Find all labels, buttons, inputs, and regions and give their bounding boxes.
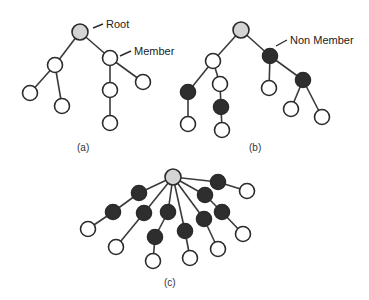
member-node <box>146 254 161 269</box>
member-node <box>236 227 251 242</box>
root-label: Root <box>106 18 129 30</box>
caption-a: (a) <box>77 142 89 153</box>
non-member-node <box>181 85 196 100</box>
non-member-node <box>296 73 311 88</box>
non-member-node <box>106 205 121 220</box>
member-node <box>211 242 226 257</box>
non-member-node <box>263 49 278 64</box>
member-node <box>181 117 196 132</box>
member-label: Member <box>134 45 175 57</box>
member-node <box>109 240 124 255</box>
non-member-node <box>178 224 193 239</box>
non-member-node <box>148 230 163 245</box>
member-node <box>262 81 277 96</box>
non-member-node <box>215 205 230 220</box>
tree-a-edges <box>30 32 143 123</box>
multicast-tree-diagram: Root Member Non Member (a) (b) (c) <box>0 0 369 300</box>
member-node <box>215 123 230 138</box>
member-node <box>48 58 63 73</box>
member-node <box>213 77 228 92</box>
member-node <box>23 86 38 101</box>
tree-a-nodes <box>23 24 151 131</box>
non-member-node <box>197 212 212 227</box>
caption-b: (b) <box>249 142 261 153</box>
non-member-node <box>132 186 147 201</box>
member-node <box>81 222 96 237</box>
non-member-label: Non Member <box>290 34 354 46</box>
member-node <box>136 75 151 90</box>
non-member-pointer-line <box>276 40 287 46</box>
member-node <box>240 184 255 199</box>
non-member-node <box>211 175 226 190</box>
member-node <box>103 116 118 131</box>
member-node <box>206 54 221 69</box>
root-node <box>233 22 249 38</box>
non-member-node <box>198 188 213 203</box>
non-member-node <box>161 205 176 220</box>
member-node <box>55 99 70 114</box>
tree-a <box>23 24 151 131</box>
member-node <box>284 102 299 117</box>
non-member-node <box>137 206 152 221</box>
root-node <box>72 24 88 40</box>
root-pointer-line <box>93 24 103 28</box>
member-node <box>103 83 118 98</box>
member-pointer-line <box>120 51 131 56</box>
member-node <box>315 110 330 125</box>
non-member-node <box>214 100 229 115</box>
member-node <box>103 51 118 66</box>
member-node <box>183 251 198 266</box>
tree-c <box>81 169 255 269</box>
caption-c: (c) <box>164 277 176 288</box>
root-node <box>165 169 181 185</box>
